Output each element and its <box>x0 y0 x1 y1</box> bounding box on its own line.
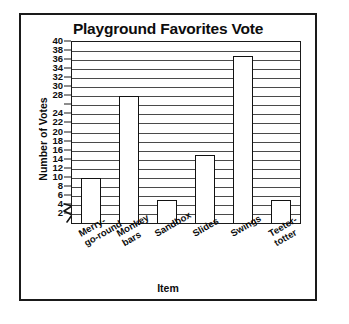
y-tick-label: 14 <box>52 154 63 164</box>
y-tick-mark <box>64 149 71 150</box>
bar-swings[interactable] <box>233 56 254 223</box>
gridline <box>72 51 300 52</box>
y-tick-mark <box>64 185 71 186</box>
y-tick-mark <box>64 50 71 51</box>
y-tick-mark <box>64 131 71 132</box>
gridline <box>72 96 300 97</box>
y-tick-label: 36 <box>52 54 63 64</box>
y-tick-label: 22 <box>52 118 63 128</box>
y-tick-label: 12 <box>52 163 63 173</box>
y-tick-label: 28 <box>52 91 63 101</box>
x-axis-ticks: Merry-go-roundMonkeybarsSandboxSlidesSwi… <box>71 224 301 284</box>
bar-monkey-bars[interactable] <box>119 96 140 223</box>
gridline <box>72 133 300 134</box>
gridline <box>72 114 300 115</box>
y-tick-label: 18 <box>52 136 63 146</box>
gridline <box>72 69 300 70</box>
gridline <box>72 60 300 61</box>
y-tick-mark <box>64 86 71 87</box>
y-tick-mark <box>64 158 71 159</box>
y-tick-mark <box>64 167 71 168</box>
y-tick-label: 38 <box>52 45 63 55</box>
y-tick-mark <box>64 77 71 78</box>
y-tick-label: 10 <box>52 172 63 182</box>
y-tick-label: 34 <box>52 63 63 73</box>
gridline <box>72 151 300 152</box>
plot-area <box>71 41 301 224</box>
gridline <box>72 187 300 188</box>
x-axis-title: Item <box>21 282 315 294</box>
y-tick-label: 8 <box>58 181 63 191</box>
gridline <box>72 169 300 170</box>
y-tick-mark <box>64 176 71 177</box>
y-tick-mark <box>64 95 71 96</box>
bar-slides[interactable] <box>195 155 216 223</box>
gridline <box>72 123 300 124</box>
gridline <box>72 178 300 179</box>
y-tick-label: 24 <box>52 109 63 119</box>
y-tick-mark <box>64 41 71 42</box>
gridline <box>72 142 300 143</box>
y-tick-mark <box>64 104 71 105</box>
y-axis-ticks: 2468101214161820222428303234363840 <box>21 41 71 224</box>
y-tick-mark <box>64 194 71 195</box>
y-tick-label: 16 <box>52 145 63 155</box>
y-tick-mark <box>64 140 71 141</box>
y-tick-mark <box>64 59 71 60</box>
y-tick-label: 40 <box>52 36 63 46</box>
y-tick-label: 20 <box>52 127 63 137</box>
y-tick-mark <box>64 113 71 114</box>
gridline <box>72 87 300 88</box>
gridline <box>72 196 300 197</box>
y-tick-mark <box>64 68 71 69</box>
chart-title: Playground Favorites Vote <box>21 20 315 38</box>
gridline <box>72 78 300 79</box>
y-tick-label: 32 <box>52 72 63 82</box>
y-tick-label: 6 <box>58 190 63 200</box>
chart-figure: Playground Favorites Vote Number of Vote… <box>19 13 317 301</box>
y-tick-label: 30 <box>52 82 63 92</box>
gridline <box>72 160 300 161</box>
y-tick-mark <box>64 122 71 123</box>
gridline <box>72 205 300 206</box>
gridline <box>72 105 300 106</box>
